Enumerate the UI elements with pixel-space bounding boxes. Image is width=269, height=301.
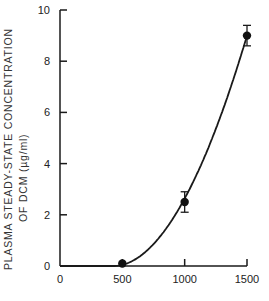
axes bbox=[60, 10, 247, 266]
y-tick-label: 4 bbox=[44, 158, 50, 170]
y-axis-title-line2: OF DCM (µg/ml) bbox=[17, 134, 29, 222]
y-tick-label: 6 bbox=[44, 106, 50, 118]
data-points bbox=[118, 25, 251, 267]
y-tick-label: 0 bbox=[44, 260, 50, 272]
data-point bbox=[118, 259, 126, 267]
x-tick-label: 0 bbox=[57, 273, 63, 285]
y-tick-label: 10 bbox=[38, 4, 50, 16]
fit-curve bbox=[60, 36, 247, 266]
ticks: 0246810050010001500 bbox=[38, 4, 259, 285]
fit-curve-layer bbox=[60, 36, 247, 266]
data-point bbox=[180, 198, 188, 206]
y-tick-label: 2 bbox=[44, 209, 50, 221]
y-axis-title-line1: PLASMA STEADY-STATE CONCENTRATION bbox=[2, 28, 14, 270]
data-point bbox=[243, 31, 251, 39]
x-tick-label: 500 bbox=[113, 273, 131, 285]
y-tick-label: 8 bbox=[44, 55, 50, 67]
x-tick-label: 1500 bbox=[235, 273, 259, 285]
x-tick-label: 1000 bbox=[172, 273, 196, 285]
chart: 0246810050010001500 PLASMA STEADY-STATE … bbox=[0, 0, 269, 301]
